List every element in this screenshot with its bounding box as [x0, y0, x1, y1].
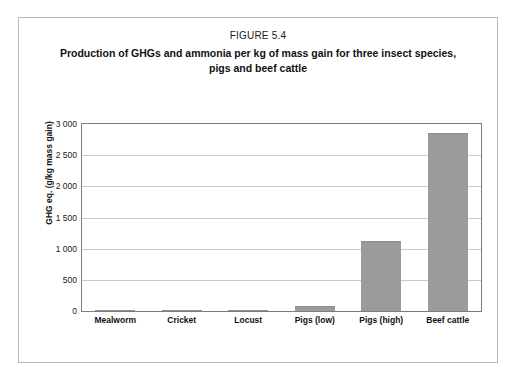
- y-tick-label: 2 500: [23, 150, 77, 160]
- bar-slot: [348, 124, 415, 311]
- bar-beef-cattle[interactable]: [428, 133, 468, 311]
- figure-card: FIGURE 5.4 Production of GHGs and ammoni…: [18, 17, 498, 363]
- y-tick-label: 3 000: [23, 119, 77, 129]
- bar-slot: [215, 124, 282, 311]
- bar-locust[interactable]: [228, 310, 268, 312]
- x-axis-tick-labels: MealwormCricketLocustPigs (low)Pigs (hig…: [82, 315, 481, 331]
- bar-slot: [82, 124, 149, 311]
- bar-mealworm[interactable]: [95, 310, 135, 312]
- bar-cricket[interactable]: [162, 310, 202, 312]
- bar-slot: [282, 124, 349, 311]
- y-tick-label: 1 500: [23, 213, 77, 223]
- bar-pigs-high[interactable]: [361, 241, 401, 311]
- x-tick-label: Mealworm: [94, 315, 136, 325]
- x-tick-label: Pigs (high): [359, 315, 403, 325]
- y-tick-label: 0: [23, 306, 77, 316]
- bar-slot: [415, 124, 482, 311]
- y-tick-label: 500: [23, 275, 77, 285]
- x-tick-label: Beef cattle: [426, 315, 469, 325]
- bar-series: [82, 124, 481, 311]
- bar-pigs-low[interactable]: [295, 306, 335, 311]
- x-tick-label: Locust: [234, 315, 262, 325]
- y-tick-label: 1 000: [23, 244, 77, 254]
- x-tick-label: Cricket: [167, 315, 196, 325]
- y-axis-tick-labels: 05001 0001 5002 0002 5003 000: [19, 123, 77, 312]
- bar-slot: [149, 124, 216, 311]
- y-tick-label: 2 000: [23, 181, 77, 191]
- x-tick-label: Pigs (low): [295, 315, 335, 325]
- chart-plot-area: GHG eq. (g/kg mass gain) 05001 0001 5002…: [19, 18, 499, 364]
